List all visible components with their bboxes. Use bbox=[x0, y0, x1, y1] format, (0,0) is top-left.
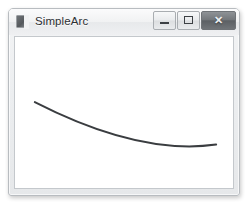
close-icon: ✕ bbox=[202, 12, 235, 29]
window-controls: ✕ bbox=[152, 11, 236, 30]
maximize-button[interactable] bbox=[177, 11, 200, 30]
arc-canvas bbox=[15, 37, 233, 188]
window-titlebar[interactable]: SimpleArc ✕ bbox=[9, 9, 239, 35]
window-title: SimpleArc bbox=[35, 13, 88, 29]
minimize-button[interactable] bbox=[153, 11, 176, 30]
screen-root: SimpleArc ✕ bbox=[0, 0, 252, 208]
arc-shape bbox=[35, 102, 216, 146]
application-window: SimpleArc ✕ bbox=[8, 8, 240, 196]
client-canvas-area bbox=[14, 36, 234, 189]
app-window-icon bbox=[16, 15, 29, 28]
close-button[interactable]: ✕ bbox=[201, 11, 236, 30]
